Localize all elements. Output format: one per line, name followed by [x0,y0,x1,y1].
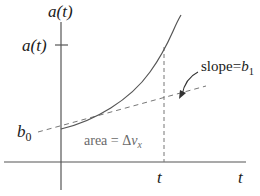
slope-label-sub: 1 [249,66,254,77]
acceleration-curve [61,15,181,129]
y-axis-label-base: a [48,2,57,21]
y-axis-label-arg: (t) [57,2,73,21]
slope-arrow [182,72,198,95]
y-axis-label: a(t) [48,3,73,20]
area-label: area = Δvx [84,134,142,150]
intercept-label: b0 [17,123,31,144]
acceleration-diagram: a(t) a(t) b0 slope=b1 area = Δvx t t [0,0,260,196]
y-tick-label-arg: (t) [31,36,47,55]
intercept-label-base: b [17,122,26,141]
area-label-prefix: area = Δ [84,133,131,148]
x-axis-label: t [238,169,243,186]
y-tick-label-base: a [22,36,31,55]
slope-label-prefix: slope= [201,58,241,74]
y-tick-label: a(t) [22,37,47,54]
area-label-sub: x [137,139,141,150]
slope-label: slope=b1 [201,59,254,77]
slope-label-base: b [241,58,249,74]
x-tick-label: t [157,169,162,186]
intercept-label-sub: 0 [26,130,32,144]
diagram-canvas [0,0,260,196]
slope-arrow-head [179,90,186,99]
